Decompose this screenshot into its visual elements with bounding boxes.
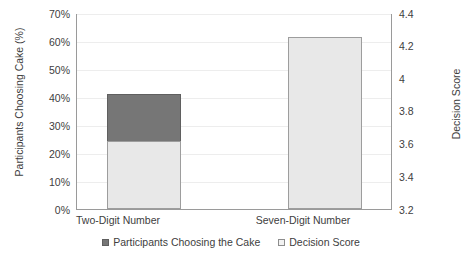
bar-segment-decision-score[interactable] (107, 141, 181, 209)
legend-item-participants-choosing-cake[interactable]: Participants Choosing the Cake (102, 236, 260, 248)
right-tick-4-2: 4.2 (399, 41, 439, 52)
left-tick-70: 70% (26, 9, 70, 20)
legend-label-decision-score: Decision Score (289, 236, 360, 248)
legend-item-decision-score[interactable]: Decision Score (278, 236, 360, 248)
chart-container: Participants Choosing Cake (%) Decision … (0, 0, 462, 266)
category-label-seven-digit-number: Seven-Digit Number (238, 214, 368, 226)
bar-segment-participants-choosing-cake[interactable] (107, 94, 181, 142)
right-tick-4: 4 (399, 74, 439, 85)
bar-segment-decision-score[interactable] (288, 37, 362, 209)
right-tick-3-2: 3.2 (399, 205, 439, 216)
left-tick-40: 40% (26, 93, 70, 104)
left-tick-30: 30% (26, 121, 70, 132)
category-label-two-digit-number: Two-Digit Number (58, 214, 178, 226)
bar-two-digit-number[interactable] (107, 94, 181, 209)
plot-area (76, 14, 392, 210)
dark-swatch-icon (102, 239, 109, 246)
left-axis-title: Participants Choosing Cake (%) (13, 0, 25, 207)
gridline-70 (77, 14, 391, 15)
left-tick-50: 50% (26, 65, 70, 76)
legend-label-participants-choosing-cake: Participants Choosing the Cake (113, 236, 260, 248)
bar-seven-digit-number[interactable] (288, 37, 362, 209)
right-tick-3-4: 3.4 (399, 172, 439, 183)
right-tick-3-6: 3.6 (399, 139, 439, 150)
light-swatch-icon (278, 239, 285, 246)
chart-legend: Participants Choosing the Cake Decision … (0, 236, 462, 248)
left-tick-20: 20% (26, 149, 70, 160)
right-axis-title: Decision Score (450, 14, 462, 194)
left-tick-10: 10% (26, 177, 70, 188)
left-tick-60: 60% (26, 37, 70, 48)
right-tick-3-8: 3.8 (399, 106, 439, 117)
right-tick-4-4: 4.4 (399, 9, 439, 20)
caption-sliver (0, 261, 462, 266)
